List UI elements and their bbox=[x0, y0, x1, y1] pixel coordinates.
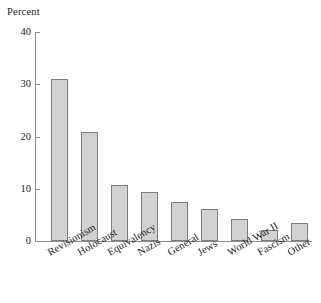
bar-chart: Percent 010203040 RevisionismHolocaustEq… bbox=[0, 0, 321, 303]
bar bbox=[201, 209, 218, 241]
x-axis-labels: RevisionismHolocaustEquivalencyNazisGene… bbox=[0, 241, 321, 303]
bar bbox=[51, 79, 68, 241]
